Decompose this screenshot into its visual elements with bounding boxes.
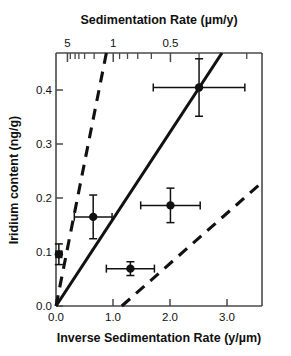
x-tick-label-0: 0.0 [48, 311, 64, 323]
top-axis-tick-labels: 510.5 [64, 37, 178, 49]
fit-line-lower-bound [122, 182, 262, 306]
y-tick-label-2: 0.2 [36, 192, 52, 204]
y-axis-tick-labels: 0.0 0.1 0.2 0.3 0.4 [36, 84, 53, 312]
top-tick-label-2: 0.5 [162, 37, 178, 49]
y-tick-label-1: 0.1 [36, 246, 52, 258]
top-tick-label-1: 1 [110, 37, 116, 49]
data-point-4 [153, 59, 245, 117]
top-axis-title: Sedimentation Rate (µm/y) [80, 13, 237, 27]
y-tick-label-4: 0.4 [36, 84, 53, 96]
chart-canvas: Sedimentation Rate (µm/y) 0.0 0.1 0.2 0.… [0, 0, 291, 356]
y-tick-label-3: 0.3 [36, 138, 52, 150]
top-axis-title-group: Sedimentation Rate (µm/y) [80, 13, 237, 27]
y-axis-title: Iridium content (ng/g) [7, 116, 21, 244]
x-tick-label-3: 3.0 [219, 311, 235, 323]
fit-lines-group [56, 53, 262, 306]
marker-0 [55, 250, 63, 258]
data-point-1 [74, 195, 112, 239]
y-axis-ticks [56, 90, 63, 306]
x-axis-tick-labels: 0.0 1.0 2.0 3.0 [48, 311, 235, 323]
x-tick-label-1: 1.0 [105, 311, 121, 323]
data-point-2 [106, 262, 154, 276]
marker-4 [195, 83, 203, 91]
x-axis-title: Inverse Sedimentation Rate (y/µm) [57, 331, 261, 345]
marker-3 [166, 201, 174, 209]
iridium-sedimentation-figure: Sedimentation Rate (µm/y) 0.0 0.1 0.2 0.… [0, 0, 291, 356]
marker-2 [126, 264, 134, 272]
data-point-3 [141, 188, 201, 223]
x-axis-ticks [56, 299, 227, 306]
plot-frame [56, 53, 262, 306]
marker-1 [89, 213, 97, 221]
top-tick-label-0: 5 [64, 37, 70, 49]
x-tick-label-2: 2.0 [162, 311, 178, 323]
